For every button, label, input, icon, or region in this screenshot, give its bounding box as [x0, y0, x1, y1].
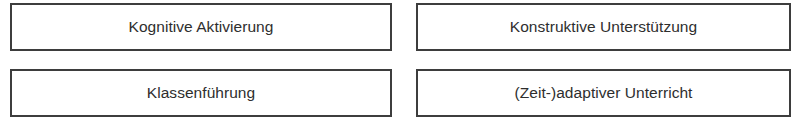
box-konstruktive-unterstuetzung: Konstruktive Unterstützung — [416, 3, 791, 51]
box-label: Kognitive Aktivierung — [129, 18, 274, 36]
box-label: (Zeit-)adaptiver Unterricht — [515, 84, 693, 102]
box-klassenfuehrung: Klassenführung — [10, 69, 392, 117]
box-label: Konstruktive Unterstützung — [510, 18, 697, 36]
box-zeitadaptiver-unterricht: (Zeit-)adaptiver Unterricht — [416, 69, 791, 117]
box-kognitive-aktivierung: Kognitive Aktivierung — [10, 3, 392, 51]
box-label: Klassenführung — [147, 84, 255, 102]
